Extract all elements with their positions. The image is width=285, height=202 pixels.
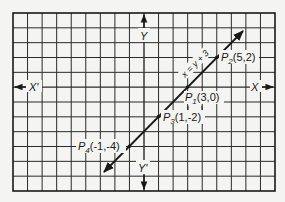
- point-p2: [215, 56, 219, 60]
- equation-label: x = y + 3: [179, 48, 211, 80]
- point-p4: [128, 144, 132, 148]
- coordinate-graph: X' X Y Y' x = y + 3 P2(5,2) P1(3,0) P3(1…: [0, 0, 285, 202]
- y-axis-label: Y: [140, 30, 148, 42]
- y-neg-axis-label: Y': [138, 162, 148, 174]
- x-axis-label: X: [250, 81, 259, 93]
- x-neg-axis-label: X': [28, 81, 39, 93]
- point-p3: [157, 115, 161, 119]
- point-p1: [186, 85, 190, 89]
